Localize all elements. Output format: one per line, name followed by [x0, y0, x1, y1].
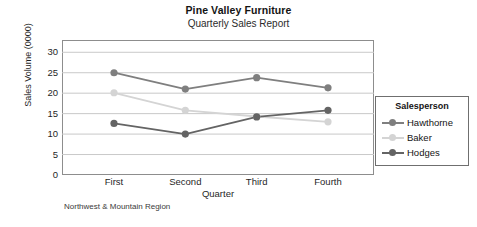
data-point-marker [182, 85, 189, 92]
data-point-marker [110, 120, 117, 127]
chart-title-block: Pine Valley Furniture Quarterly Sales Re… [0, 4, 477, 30]
legend-swatch [382, 117, 404, 128]
y-axis-tick-label: 30 [36, 47, 58, 57]
y-axis-tick-label: 5 [36, 150, 58, 160]
data-point-marker [253, 113, 260, 120]
data-point-marker [182, 107, 189, 114]
x-axis-tick-label: First [105, 176, 123, 187]
chart-subtitle: Quarterly Sales Report [0, 17, 477, 30]
series-line [114, 73, 328, 89]
legend-title: Salesperson [382, 101, 462, 112]
y-axis-title: Sales Volume (0000) [23, 10, 33, 120]
data-point-marker [110, 89, 117, 96]
legend-item-label: Hawthorne [407, 117, 453, 129]
legend-rows: HawthorneBakerHodges [382, 115, 462, 160]
data-point-marker [324, 118, 331, 125]
y-axis-tick-label: 25 [36, 68, 58, 78]
data-point-marker [182, 130, 189, 137]
y-axis-tick-label: 0 [36, 170, 58, 180]
legend-item[interactable]: Baker [382, 130, 462, 145]
chart-title: Pine Valley Furniture [0, 4, 477, 17]
legend-swatch [382, 132, 404, 143]
legend-item-label: Baker [407, 132, 432, 144]
data-point-marker [324, 84, 331, 91]
plot-series-layer [62, 40, 374, 175]
legend-swatch [382, 147, 404, 158]
quarterly-sales-line-chart: Pine Valley Furniture Quarterly Sales Re… [0, 0, 477, 227]
data-point-marker [110, 69, 117, 76]
legend-item[interactable]: Hawthorne [382, 115, 462, 130]
legend-item-label: Hodges [407, 147, 440, 159]
x-axis-tick-label: Third [246, 176, 268, 187]
y-axis-tick-label: 20 [36, 88, 58, 98]
chart-footnote: Northwest & Mountain Region [64, 202, 170, 211]
data-point-marker [324, 107, 331, 114]
series-line [114, 93, 328, 122]
y-axis-tick-label: 10 [36, 129, 58, 139]
x-axis-tick-label: Second [169, 176, 201, 187]
x-axis-title: Quarter [62, 188, 374, 199]
legend-item[interactable]: Hodges [382, 145, 462, 160]
y-axis-tick-labels: 051015202530 [36, 40, 58, 175]
y-axis-tick-label: 15 [36, 109, 58, 119]
data-point-marker [253, 74, 260, 81]
legend: Salesperson HawthorneBakerHodges [375, 96, 469, 166]
x-axis-tick-label: Fourth [314, 176, 341, 187]
